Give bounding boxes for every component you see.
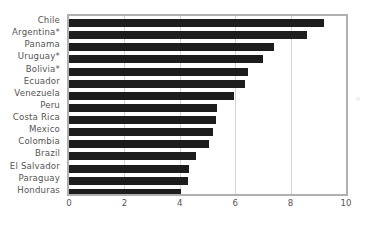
y-axis-label: Mexico (0, 123, 64, 135)
y-axis-label: Honduras (0, 184, 64, 196)
bar (69, 19, 324, 27)
y-axis-category-labels: ChileArgentina*PanamaUruguay*Bolivia*Ecu… (0, 14, 64, 196)
x-axis-tick: 4 (177, 198, 182, 208)
y-axis-label: Ecuador (0, 75, 64, 87)
bar-row (69, 78, 346, 90)
y-axis-label: Uruguay* (0, 50, 64, 62)
y-axis-label: Costa Rica (0, 111, 64, 123)
bar (69, 140, 209, 148)
bar-row (69, 150, 346, 162)
bar-row (69, 114, 346, 126)
y-axis-label: Peru (0, 99, 64, 111)
bar-row (69, 187, 346, 196)
y-axis-label: Argentina* (0, 26, 64, 38)
y-axis-label: Colombia (0, 135, 64, 147)
bar-row (69, 17, 346, 29)
x-axis-tick: 10 (341, 198, 352, 208)
bar (69, 152, 196, 160)
edge-artifact-mark: ıı (356, 96, 361, 102)
bar-row (69, 163, 346, 175)
x-axis-tick: 6 (232, 198, 237, 208)
bar-chart: ChileArgentina*PanamaUruguay*Bolivia*Ecu… (0, 0, 368, 235)
bar-row (69, 126, 346, 138)
bar (69, 55, 263, 63)
x-axis-tick-labels: 0246810 (67, 198, 348, 214)
bar-series (69, 16, 346, 194)
bar (69, 31, 307, 39)
bar (69, 177, 188, 185)
bar (69, 92, 234, 100)
bar-row (69, 29, 346, 41)
x-axis-tick: 2 (122, 198, 127, 208)
bar (69, 43, 274, 51)
y-axis-label: Paraguay (0, 172, 64, 184)
y-axis-label: El Salvador (0, 160, 64, 172)
y-axis-label: Chile (0, 14, 64, 26)
plot-area (67, 14, 348, 196)
bar (69, 128, 213, 136)
bar (69, 104, 217, 112)
bar-row (69, 53, 346, 65)
y-axis-label: Panama (0, 38, 64, 50)
bar-row (69, 138, 346, 150)
bar-row (69, 102, 346, 114)
bar-row (69, 90, 346, 102)
y-axis-label: Bolivia* (0, 63, 64, 75)
bar (69, 116, 216, 124)
x-axis-tick: 8 (288, 198, 293, 208)
bar-row (69, 66, 346, 78)
x-axis-tick: 0 (66, 198, 71, 208)
bar (69, 68, 248, 76)
bar-row (69, 41, 346, 53)
y-axis-label: Brazil (0, 147, 64, 159)
bar (69, 189, 181, 196)
bar-row (69, 175, 346, 187)
bar (69, 165, 189, 173)
y-axis-label: Venezuela (0, 87, 64, 99)
bar (69, 80, 245, 88)
